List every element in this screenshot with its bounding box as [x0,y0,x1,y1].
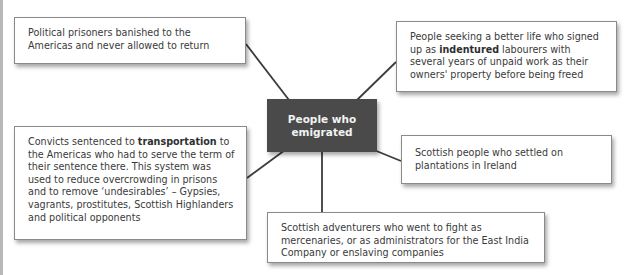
connector-political-prisoners [246,44,289,100]
node-irish-plantations: Scottish people who settled on plantatio… [401,135,612,184]
node-text: Political prisoners banished to the Amer… [28,27,209,51]
central-node-label: People who emigrated [282,113,362,139]
connector-irish-plantations [374,150,401,161]
key-term-transportation: transportation [138,136,217,147]
connector-convicts [247,150,285,178]
key-term-indentured: indentured [439,44,499,55]
connector-indentured-labourers [357,62,396,100]
node-convicts: Convicts sentenced to transportation to … [14,126,247,240]
node-political-prisoners: Political prisoners banished to the Amer… [14,17,246,64]
node-text-pre: Convicts sentenced to [28,136,138,147]
central-node: People who emigrated [267,99,377,152]
node-text: Scottish adventurers who went to fight a… [281,222,529,258]
node-adventurers: Scottish adventurers who went to fight a… [267,212,545,263]
node-indentured-labourers: People seeking a better life who signed … [396,21,617,92]
node-text: Scottish people who settled on plantatio… [415,147,563,171]
node-text-post: to the Americas who had to serve the ter… [28,136,234,223]
